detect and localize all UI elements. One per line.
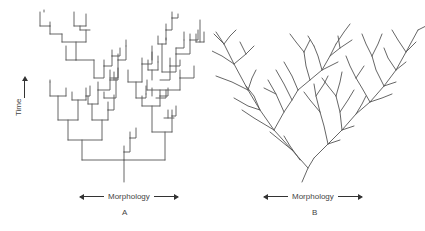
arrow-left-icon: [264, 196, 288, 197]
morphology-axis-b: Morphology: [260, 192, 366, 201]
morphology-axis-a: Morphology: [76, 192, 182, 201]
morphology-axis-label-a: Morphology: [108, 192, 150, 201]
arrow-up-icon: [24, 78, 25, 98]
panel-label-a: A: [122, 208, 127, 217]
arrow-right-icon: [338, 196, 362, 197]
panel-label-b: B: [312, 208, 317, 217]
time-axis-label: Time: [14, 99, 23, 116]
panel-b: Morphology B: [212, 0, 425, 231]
arrow-right-icon: [154, 196, 178, 197]
arrow-left-icon: [80, 196, 104, 197]
time-axis: Time: [14, 76, 26, 120]
panel-a: Time Morphology A: [0, 0, 212, 231]
morphology-axis-label-b: Morphology: [292, 192, 334, 201]
